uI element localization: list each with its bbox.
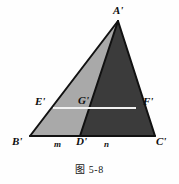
segment-label-m: m: [54, 140, 61, 149]
figure-container: A' E' G' F' B' D' C' m n 图 5-8: [0, 0, 179, 184]
vertex-label-c-prime: C': [156, 136, 166, 147]
geometry-figure: [0, 0, 179, 184]
vertex-label-e-prime: E': [35, 96, 45, 107]
vertex-label-f-prime: F': [143, 96, 153, 107]
vertex-label-b-prime: B': [12, 136, 22, 147]
vertex-label-a-prime: A': [113, 5, 123, 16]
figure-caption: 图 5-8: [0, 164, 179, 176]
vertex-label-d-prime: D': [76, 136, 87, 147]
segment-label-n: n: [104, 140, 109, 149]
vertex-label-g-prime: G': [78, 95, 89, 106]
